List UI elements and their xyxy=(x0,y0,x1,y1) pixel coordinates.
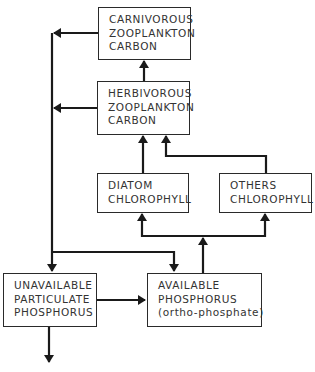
node-label-line: CHLOROPHYLL xyxy=(108,193,188,207)
node-label-line: OTHERS xyxy=(230,179,311,193)
node-label-line: PHOSPHORUS xyxy=(158,293,261,307)
node-label-line: PARTICULATE xyxy=(14,293,96,307)
node-label-line: CARNIVOROUS xyxy=(109,13,190,27)
branch-to-diatom xyxy=(142,214,203,236)
node-label-line: ZOOPLANKTON xyxy=(109,27,190,41)
node-label-line: ZOOPLANKTON xyxy=(108,101,189,115)
node-available-phosphorus: AVAILABLE PHOSPHORUS (ortho-phosphate) xyxy=(147,273,262,327)
node-label-line: DIATOM xyxy=(108,179,188,193)
node-label-line: HERBIVOROUS xyxy=(108,87,189,101)
node-others-chlorophyll: OTHERS CHLOROPHYLL xyxy=(219,173,312,213)
node-unavailable-particulate-phosphorus: UNAVAILABLE PARTICULATE PHOSPHORUS xyxy=(3,273,97,327)
node-label-line: PHOSPHORUS xyxy=(14,306,96,320)
node-label-line: CARBON xyxy=(108,114,189,128)
node-diatom-chlorophyll: DIATOM CHLOROPHYLL xyxy=(97,173,189,213)
node-label-line: UNAVAILABLE xyxy=(14,279,96,293)
node-label-line: (ortho-phosphate) xyxy=(158,306,261,320)
node-label-line: CARBON xyxy=(109,40,190,54)
branch-to-others xyxy=(203,214,265,236)
edge-others-herbivorous xyxy=(166,136,266,173)
node-label-line: AVAILABLE xyxy=(158,279,261,293)
node-carnivorous-zooplankton: CARNIVOROUS ZOOPLANKTON CARBON xyxy=(98,7,191,60)
node-label-line: CHLOROPHYLL xyxy=(230,193,311,207)
node-herbivorous-zooplankton: HERBIVOROUS ZOOPLANKTON CARBON xyxy=(97,81,190,135)
